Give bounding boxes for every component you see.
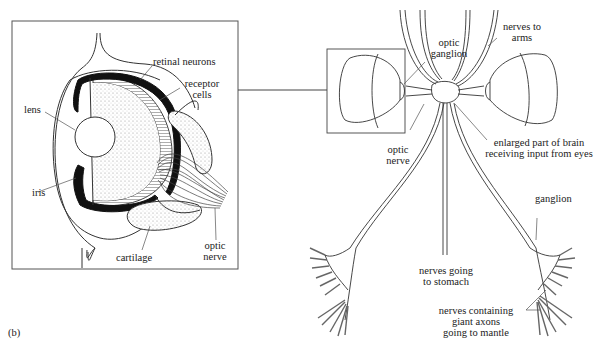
label-optic-nerve-eye-line1: optic <box>200 240 230 251</box>
label-optic-nerve-line1: optic <box>382 144 414 155</box>
label-optic-ganglion-line1: optic <box>426 37 472 48</box>
label-iris: iris <box>32 187 45 198</box>
label-optic-ganglion-line2: ganglion <box>426 48 472 59</box>
diagram-drawing <box>0 0 601 349</box>
label-nerves-stomach-line1: nerves going <box>410 265 482 276</box>
label-giant-axons-line1: nerves containing <box>426 305 526 316</box>
label-optic-nerve-eye-line2: nerve <box>200 251 230 262</box>
label-nerves-to-arms-line1: nerves to <box>497 21 547 32</box>
label-enlarged-brain-line2: receiving input from eyes <box>480 148 598 159</box>
label-giant-axons-line2: giant axons <box>426 316 526 327</box>
label-retinal-neurons: retinal neurons <box>153 56 216 67</box>
label-receptor-cells-line1: receptor <box>180 78 224 89</box>
label-giant-axons-line3: going to mantle <box>426 327 526 338</box>
figure-canvas: retinal neurons receptor cells lens iris… <box>0 0 601 349</box>
label-lens: lens <box>24 104 41 115</box>
panel-label: (b) <box>8 327 20 338</box>
label-receptor-cells-line2: cells <box>180 89 224 100</box>
label-nerves-to-arms-line2: arms <box>497 32 547 43</box>
label-nerves-stomach-line2: to stomach <box>410 276 482 287</box>
label-ganglion: ganglion <box>535 193 572 204</box>
label-enlarged-brain-line1: enlarged part of brain <box>480 137 598 148</box>
label-optic-nerve-line2: nerve <box>382 155 414 166</box>
label-cartilage: cartilage <box>116 252 152 263</box>
